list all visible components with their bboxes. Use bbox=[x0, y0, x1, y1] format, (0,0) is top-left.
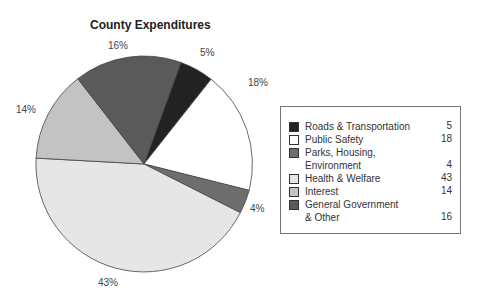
legend-swatch-health bbox=[289, 174, 299, 184]
legend-label: General Government bbox=[305, 198, 398, 211]
legend-value: 16 bbox=[441, 211, 452, 222]
legend-swatch-parks bbox=[289, 148, 299, 158]
label-parks: 4% bbox=[250, 203, 264, 214]
label-roads: 5% bbox=[200, 47, 214, 58]
legend-value: 5 bbox=[446, 120, 452, 131]
label-health: 43% bbox=[98, 277, 118, 288]
legend-label: Parks, Housing, bbox=[305, 146, 376, 159]
legend-label: Roads & Transportation bbox=[305, 120, 410, 133]
label-interest: 14% bbox=[16, 104, 36, 115]
legend-value: 18 bbox=[441, 133, 452, 144]
legend: Roads & Transportation 5 Public Safety 1… bbox=[280, 106, 461, 234]
legend-label-cont: & Other bbox=[305, 211, 339, 224]
legend-label: Public Safety bbox=[305, 133, 363, 146]
legend-label: Health & Welfare bbox=[305, 172, 380, 185]
legend-swatch-public-safety bbox=[289, 135, 299, 145]
label-general-government: 16% bbox=[108, 40, 128, 51]
legend-value: 4 bbox=[446, 159, 452, 170]
legend-value: 43 bbox=[441, 172, 452, 183]
legend-label-cont: Environment bbox=[305, 159, 361, 172]
legend-label: Interest bbox=[305, 185, 338, 198]
legend-swatch-interest bbox=[289, 187, 299, 197]
legend-swatch-roads bbox=[289, 122, 299, 132]
label-public-safety: 18% bbox=[248, 77, 268, 88]
legend-swatch-general-government bbox=[289, 200, 299, 210]
legend-value: 14 bbox=[441, 185, 452, 196]
